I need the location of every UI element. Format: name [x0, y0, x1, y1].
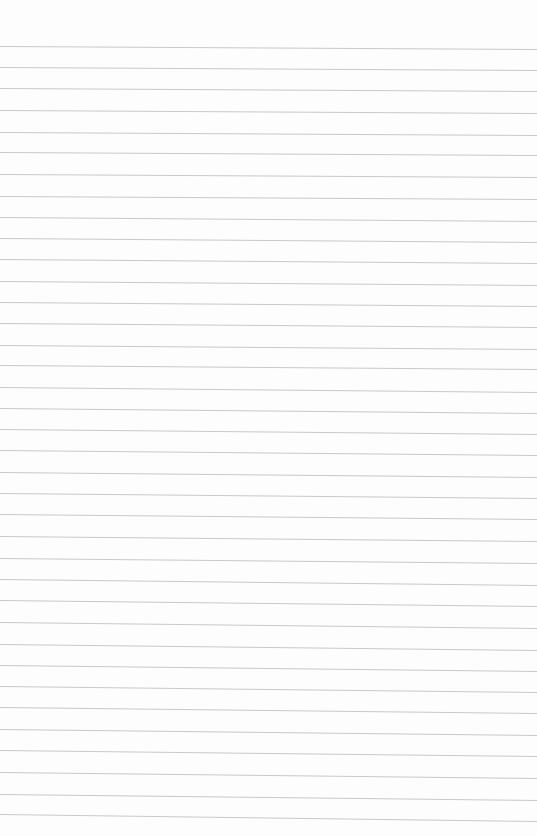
ruled-line — [0, 388, 537, 393]
ruled-line — [0, 708, 537, 714]
ruled-line — [0, 730, 537, 736]
ruled-line — [0, 303, 537, 307]
ruled-lines — [0, 0, 537, 836]
ruled-line — [0, 580, 537, 586]
ruled-line — [0, 601, 537, 607]
ruled-line — [0, 795, 537, 801]
ruled-line — [0, 218, 537, 222]
ruled-line — [0, 197, 537, 200]
ruled-line — [0, 260, 537, 264]
ruled-line — [0, 47, 537, 50]
ruled-line — [0, 366, 537, 370]
ruled-line — [0, 751, 537, 757]
ruled-line — [0, 773, 537, 779]
ruled-line — [0, 815, 537, 822]
ruled-line — [0, 687, 537, 693]
ruled-line — [0, 324, 537, 328]
ruled-line — [0, 451, 537, 456]
ruled-line — [0, 623, 537, 629]
lined-paper-sheet — [0, 0, 537, 836]
ruled-line — [0, 559, 537, 564]
ruled-line — [0, 346, 537, 350]
ruled-line — [0, 282, 537, 286]
ruled-line — [0, 473, 537, 478]
ruled-line — [0, 89, 537, 92]
ruled-line — [0, 409, 537, 414]
ruled-line — [0, 175, 537, 178]
ruled-line — [0, 666, 537, 672]
ruled-line — [0, 494, 537, 499]
ruled-line — [0, 645, 537, 651]
ruled-line — [0, 133, 537, 136]
ruled-line — [0, 153, 537, 156]
ruled-line — [0, 537, 537, 542]
ruled-line — [0, 430, 537, 435]
ruled-line — [0, 239, 537, 243]
ruled-line — [0, 68, 537, 71]
ruled-line — [0, 515, 537, 520]
ruled-line — [0, 111, 537, 114]
